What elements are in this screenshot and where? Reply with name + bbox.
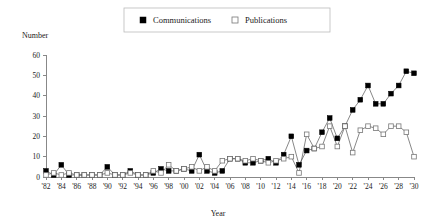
data-point-publications [151, 169, 156, 174]
data-point-publications [159, 171, 164, 176]
data-point-publications [174, 169, 179, 174]
data-point-publications [243, 158, 248, 163]
data-point-publications [335, 144, 340, 149]
y-tick-label: 30 [33, 112, 41, 121]
y-tick-label: 0 [36, 173, 40, 182]
x-tick-label: '16 [302, 182, 311, 191]
data-point-publications [312, 146, 317, 151]
data-point-communications [396, 83, 401, 88]
data-point-publications [343, 124, 348, 129]
data-point-publications [366, 124, 371, 129]
data-point-communications [404, 69, 409, 74]
data-point-publications [258, 158, 263, 163]
data-point-publications [396, 124, 401, 129]
data-point-publications [189, 165, 194, 170]
data-point-communications [358, 97, 363, 102]
data-point-communications [220, 169, 225, 174]
data-point-publications [289, 154, 294, 159]
data-point-publications [412, 154, 417, 159]
x-tick-label: '90 [103, 182, 112, 191]
data-point-publications [44, 173, 49, 178]
x-tick-label: '84 [57, 182, 66, 191]
data-point-publications [381, 132, 386, 137]
x-tick-label: '04 [210, 182, 219, 191]
data-point-communications [381, 101, 386, 106]
data-point-publications [143, 173, 148, 178]
data-point-publications [274, 158, 279, 163]
data-point-publications [373, 126, 378, 131]
data-point-publications [228, 156, 233, 161]
y-tick-label: 60 [33, 51, 41, 60]
data-point-publications [327, 124, 332, 129]
data-point-publications [113, 173, 118, 178]
data-point-publications [320, 144, 325, 149]
data-point-publications [212, 169, 217, 174]
data-point-publications [205, 165, 210, 170]
chart-container: CommunicationsPublications 0102030405060… [0, 0, 430, 223]
data-point-communications [304, 148, 309, 153]
data-point-publications [281, 156, 286, 161]
data-point-communications [197, 152, 202, 157]
x-tick-label: '82 [42, 182, 51, 191]
data-point-publications [51, 171, 56, 176]
y-tick-label: 40 [33, 91, 41, 100]
data-point-publications [358, 128, 363, 133]
x-tick-label: '24 [364, 182, 373, 191]
data-point-publications [297, 171, 302, 176]
data-point-publications [235, 156, 240, 161]
data-point-communications [389, 91, 394, 96]
data-point-publications [404, 130, 409, 135]
line-chart: CommunicationsPublications 0102030405060… [0, 0, 430, 223]
x-tick-label: '06 [226, 182, 235, 191]
data-point-publications [350, 150, 355, 155]
data-point-publications [389, 124, 394, 129]
legend-label-publications: Publications [245, 15, 287, 25]
x-tick-label: '98 [164, 182, 173, 191]
x-tick-label: '94 [134, 182, 143, 191]
data-point-communications [297, 162, 302, 167]
y-tick-label: 20 [33, 132, 41, 141]
data-point-publications [166, 163, 171, 168]
data-point-publications [67, 171, 72, 176]
x-tick-label: '26 [379, 182, 388, 191]
x-tick-label: '92 [118, 182, 127, 191]
data-point-communications [289, 134, 294, 139]
x-tick-label: '00 [180, 182, 189, 191]
data-point-publications [136, 173, 141, 178]
data-point-publications [128, 171, 133, 176]
data-point-publications [97, 173, 102, 178]
x-tick-label: '22 [348, 182, 357, 191]
data-point-publications [251, 156, 256, 161]
data-point-communications [366, 83, 371, 88]
x-tick-label: '20 [333, 182, 342, 191]
x-tick-label: '30 [410, 182, 419, 191]
data-point-publications [197, 169, 202, 174]
data-point-communications [105, 164, 110, 169]
data-point-communications [327, 116, 332, 121]
legend-label-communications: Communications [153, 15, 211, 25]
x-tick-label: '14 [287, 182, 296, 191]
data-point-publications [74, 173, 79, 178]
y-tick-label: 50 [33, 71, 41, 80]
data-point-publications [90, 173, 95, 178]
data-point-communications [166, 169, 171, 174]
data-point-communications [350, 108, 355, 113]
x-tick-label: '28 [394, 182, 403, 191]
x-tick-label: '12 [272, 182, 281, 191]
data-point-publications [266, 160, 271, 165]
chart-axes: 0102030405060'82'84'86'88'90'92'94'96'98… [33, 51, 419, 191]
legend-marker-publications [232, 17, 238, 23]
y-tick-label: 10 [33, 152, 41, 161]
x-tick-label: '10 [256, 182, 265, 191]
data-point-publications [304, 132, 309, 137]
data-point-publications [59, 173, 64, 178]
chart-legend: CommunicationsPublications [124, 8, 330, 32]
x-tick-label: '18 [318, 182, 327, 191]
data-point-publications [220, 158, 225, 163]
data-point-communications [412, 71, 417, 76]
data-point-publications [182, 167, 187, 172]
x-axis-title: Year [211, 209, 226, 218]
x-tick-label: '86 [72, 182, 81, 191]
x-tick-label: '88 [88, 182, 97, 191]
data-point-communications [373, 101, 378, 106]
